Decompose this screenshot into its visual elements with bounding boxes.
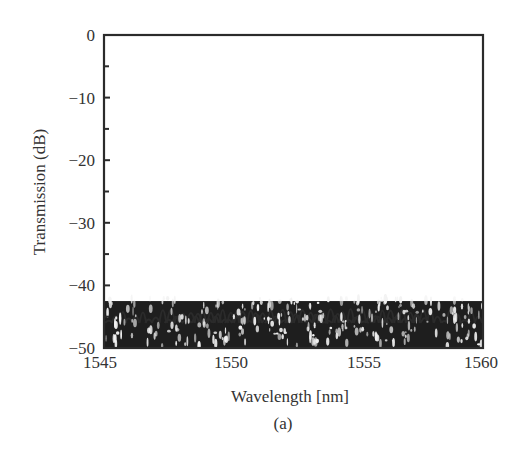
y-tick-label-minus20: −20: [68, 151, 95, 170]
y-tick-label-minus10: −10: [68, 89, 95, 108]
y-axis-title: Transmission (dB): [30, 129, 49, 255]
transmission-spectrum-chart: 0 −10 −20 −30 −40 −50 1545 1550 1555 156…: [0, 0, 532, 452]
y-tick-label-minus40: −40: [68, 276, 95, 295]
y-axis-tick-labels: 0 −10 −20 −30 −40 −50: [68, 26, 95, 358]
y-tick-label-0: 0: [87, 26, 96, 45]
figure: 0 −10 −20 −30 −40 −50 1545 1550 1555 156…: [0, 0, 532, 452]
y-tick-label-minus30: −30: [68, 214, 95, 233]
x-axis-tick-labels: 1545 1550 1555 1560: [83, 353, 498, 372]
x-tick-label-1545: 1545: [83, 353, 117, 372]
x-axis-title: Wavelength [nm]: [231, 387, 349, 406]
x-tick-label-1555: 1555: [347, 353, 381, 372]
x-tick-label-1550: 1550: [214, 353, 248, 372]
x-tick-label-1560: 1560: [464, 353, 498, 372]
noise-floor: [104, 294, 489, 351]
figure-caption: (a): [274, 414, 293, 433]
